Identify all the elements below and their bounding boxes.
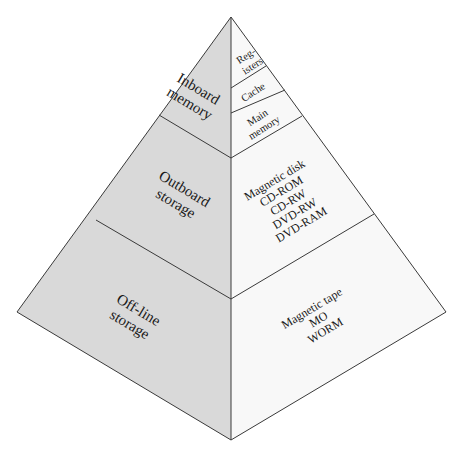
memory-hierarchy-pyramid: Inboard memory Reg- isters Cache Main me… bbox=[0, 0, 458, 454]
